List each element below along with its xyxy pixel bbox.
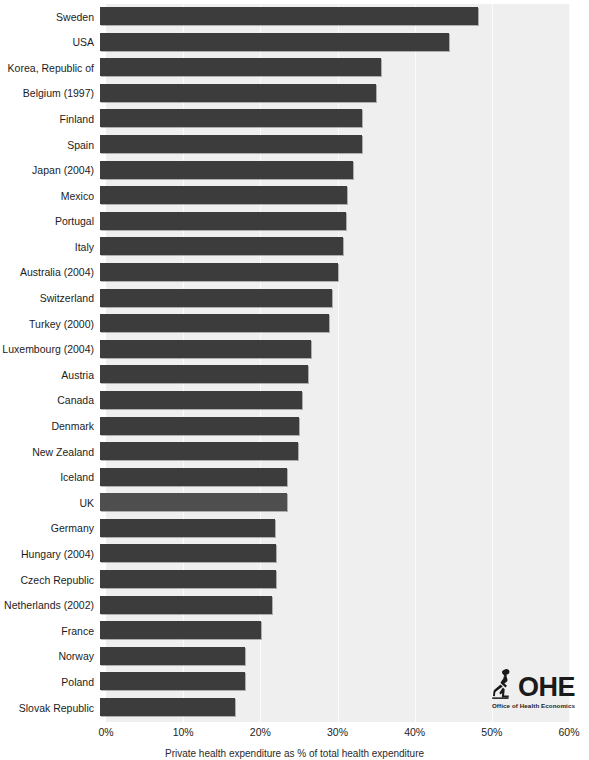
bar-row: Mexico — [0, 183, 589, 209]
x-tick-label: 30% — [327, 726, 348, 738]
bar-row: Iceland — [0, 465, 589, 491]
bar-track — [100, 516, 589, 542]
bar — [100, 544, 276, 562]
bar — [100, 621, 261, 639]
bar-category-label: Mexico — [0, 191, 100, 202]
bar-row: Denmark — [0, 414, 589, 440]
bar-chart: SwedenUSAKorea, Republic ofBelgium (1997… — [0, 0, 589, 760]
bar-track — [100, 132, 589, 158]
bar-category-label: Austria — [0, 370, 100, 381]
bar — [100, 7, 478, 25]
bar — [100, 391, 302, 409]
bar-row: Germany — [0, 516, 589, 542]
bar-track — [100, 183, 589, 209]
bar-track — [100, 55, 589, 81]
bar-track — [100, 388, 589, 414]
bar — [100, 109, 362, 127]
bar — [100, 84, 376, 102]
bar-track — [100, 362, 589, 388]
bar — [100, 135, 362, 153]
bar-track — [100, 337, 589, 363]
bar — [100, 289, 332, 307]
bar-category-label: France — [0, 626, 100, 637]
bar-category-label: Korea, Republic of — [0, 63, 100, 74]
bar-track — [100, 158, 589, 184]
bar-category-label: Czech Republic — [0, 575, 100, 586]
bar — [100, 340, 311, 358]
bar — [100, 186, 347, 204]
x-tick-label: 0% — [98, 726, 113, 738]
logo-subtitle: Office of Health Economics — [492, 702, 575, 709]
bar-row: Australia (2004) — [0, 260, 589, 286]
bar-track — [100, 234, 589, 260]
bar — [100, 672, 245, 690]
bar-category-label: Germany — [0, 523, 100, 534]
bar — [100, 417, 299, 435]
bar — [100, 519, 275, 537]
bar-rows: SwedenUSAKorea, Republic ofBelgium (1997… — [0, 4, 589, 722]
bar-track — [100, 567, 589, 593]
bar-track — [100, 260, 589, 286]
x-tick-label: 10% — [173, 726, 194, 738]
bar-row: Korea, Republic of — [0, 55, 589, 81]
bar-row: USA — [0, 30, 589, 56]
bar-track — [100, 30, 589, 56]
bar-row: New Zealand — [0, 439, 589, 465]
bar-category-label: Canada — [0, 395, 100, 406]
bar-row: Finland — [0, 106, 589, 132]
bar-row: Netherlands (2002) — [0, 593, 589, 619]
bar-track — [100, 209, 589, 235]
bar-row: France — [0, 618, 589, 644]
bar — [100, 161, 353, 179]
bar-row: Spain — [0, 132, 589, 158]
bar-category-label: Luxembourg (2004) — [0, 344, 100, 355]
bar-category-label: Iceland — [0, 472, 100, 483]
bar-track — [100, 541, 589, 567]
x-axis: 0%10%20%30%40%50%60% — [106, 726, 569, 744]
bar-row: Luxembourg (2004) — [0, 337, 589, 363]
bar-row: Japan (2004) — [0, 158, 589, 184]
bar-track — [100, 644, 589, 670]
bar-category-label: Sweden — [0, 12, 100, 23]
bar-track — [100, 414, 589, 440]
bar-row: Czech Republic — [0, 567, 589, 593]
bar-category-label: Norway — [0, 651, 100, 662]
bar — [100, 442, 298, 460]
bar-category-label: USA — [0, 37, 100, 48]
bar — [100, 493, 287, 511]
bar — [100, 698, 235, 716]
bar-row: Norway — [0, 644, 589, 670]
bar — [100, 570, 276, 588]
bar-category-label: Denmark — [0, 421, 100, 432]
x-tick-label: 40% — [404, 726, 425, 738]
bar — [100, 263, 338, 281]
bar-category-label: Poland — [0, 677, 100, 688]
bar-track — [100, 311, 589, 337]
x-tick-label: 60% — [558, 726, 579, 738]
bar-track — [100, 490, 589, 516]
bar-category-label: Australia (2004) — [0, 267, 100, 278]
bar — [100, 365, 308, 383]
bar-category-label: Italy — [0, 242, 100, 253]
bar-track — [100, 81, 589, 107]
bar-row: Sweden — [0, 4, 589, 30]
bar-category-label: Portugal — [0, 216, 100, 227]
bar-row: Hungary (2004) — [0, 541, 589, 567]
bar-category-label: Turkey (2000) — [0, 319, 100, 330]
bar-row: UK — [0, 490, 589, 516]
ohe-logo: OHE Office of Health Economics — [483, 668, 575, 712]
bar-row: Turkey (2000) — [0, 311, 589, 337]
bar-row: Canada — [0, 388, 589, 414]
bar-track — [100, 439, 589, 465]
bar-category-label: UK — [0, 498, 100, 509]
bar-row: Portugal — [0, 209, 589, 235]
bar-row: Austria — [0, 362, 589, 388]
bar-track — [100, 106, 589, 132]
bar-category-label: Finland — [0, 114, 100, 125]
bar-row: Belgium (1997) — [0, 81, 589, 107]
x-tick-label: 50% — [481, 726, 502, 738]
bar — [100, 647, 245, 665]
logo-main: OHE — [491, 668, 575, 701]
bar-category-label: Belgium (1997) — [0, 88, 100, 99]
bar — [100, 237, 343, 255]
